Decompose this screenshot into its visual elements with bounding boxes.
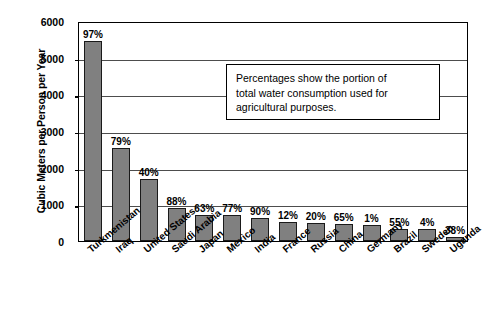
y-axis-tick-label: 4000 <box>18 90 64 101</box>
bar <box>140 179 158 241</box>
gridline <box>79 60 467 61</box>
bar-value-label: 40% <box>129 168 169 178</box>
annotation-textbox: Percentages show the portion of total wa… <box>226 64 440 120</box>
y-axis-tick-label: 2000 <box>18 164 64 175</box>
y-axis-tick-label: 6000 <box>18 17 64 28</box>
gridline <box>79 133 467 134</box>
bar <box>84 41 102 241</box>
bar-chart-figure: Cubic Meters per Person per Year 6000500… <box>0 0 489 316</box>
y-axis-tick-label: 3000 <box>18 127 64 138</box>
y-axis-tick-mark <box>75 206 79 207</box>
y-axis-tick-mark <box>75 170 79 171</box>
y-axis-tick-mark <box>75 60 79 61</box>
annotation-line-2: total water consumption used for <box>236 86 439 101</box>
y-axis-tick-mark <box>75 96 79 97</box>
bar-value-label: 79% <box>101 137 141 147</box>
annotation-line-3: agricultural purposes. <box>236 100 439 115</box>
y-axis-tick-label: 1000 <box>18 200 64 211</box>
annotation-line-1: Percentages show the portion of <box>236 71 439 86</box>
y-axis-tick-label: 5000 <box>18 54 64 65</box>
y-axis-tick-label: 0 <box>18 237 64 248</box>
y-axis-tick-mark <box>75 133 79 134</box>
bar-value-label: 97% <box>73 30 113 40</box>
